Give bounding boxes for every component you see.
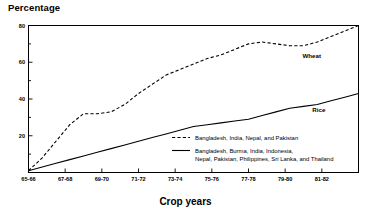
x-tick-label: 75-76 [205,176,219,182]
x-axis-title: Crop years [0,196,371,207]
series-line-wheat [29,26,359,171]
x-tick-label: 71-72 [131,176,145,182]
x-axis-tick-labels: 65-6667-6869-7071-7273-7475-7677-7879-80… [21,176,329,182]
x-tick-label: 65-66 [21,176,35,182]
y-tick-label: 80 [19,23,25,29]
x-axis-ticks [29,169,322,173]
series-annotation-rice: Rice [312,106,326,113]
x-tick-label: 73-74 [168,176,183,182]
y-axis-tick-labels: 20406080 [19,23,25,139]
x-tick-label: 69-70 [95,176,109,182]
x-tick-label: 67-68 [58,176,72,182]
legend-label-rice-countries-line1: Bangladesh, Burma, India, Indonesia, [195,148,294,154]
chart-container: Percentage 20406080 65-6667-6869-7071-72… [0,0,371,217]
x-tick-label: 77-78 [241,176,255,182]
y-tick-label: 20 [19,133,25,139]
series-annotation-wheat: Wheat [302,52,321,59]
y-axis-ticks [29,26,33,155]
plot-frame [29,26,359,173]
x-tick-label: 79-80 [278,176,292,182]
x-tick-label: 81-82 [315,176,329,182]
chart-legend: Bangladesh, India, Nepal, and Pakistan B… [172,135,333,162]
legend-label-wheat-countries: Bangladesh, India, Nepal, and Pakistan [195,135,298,141]
y-tick-label: 40 [19,96,25,102]
line-chart-plot: 20406080 65-6667-6869-7071-7273-7475-767… [0,0,371,217]
legend-label-rice-countries-line2: Nepal, Pakistan, Philippines, Sri Lanka,… [195,156,333,162]
y-tick-label: 60 [19,59,25,65]
